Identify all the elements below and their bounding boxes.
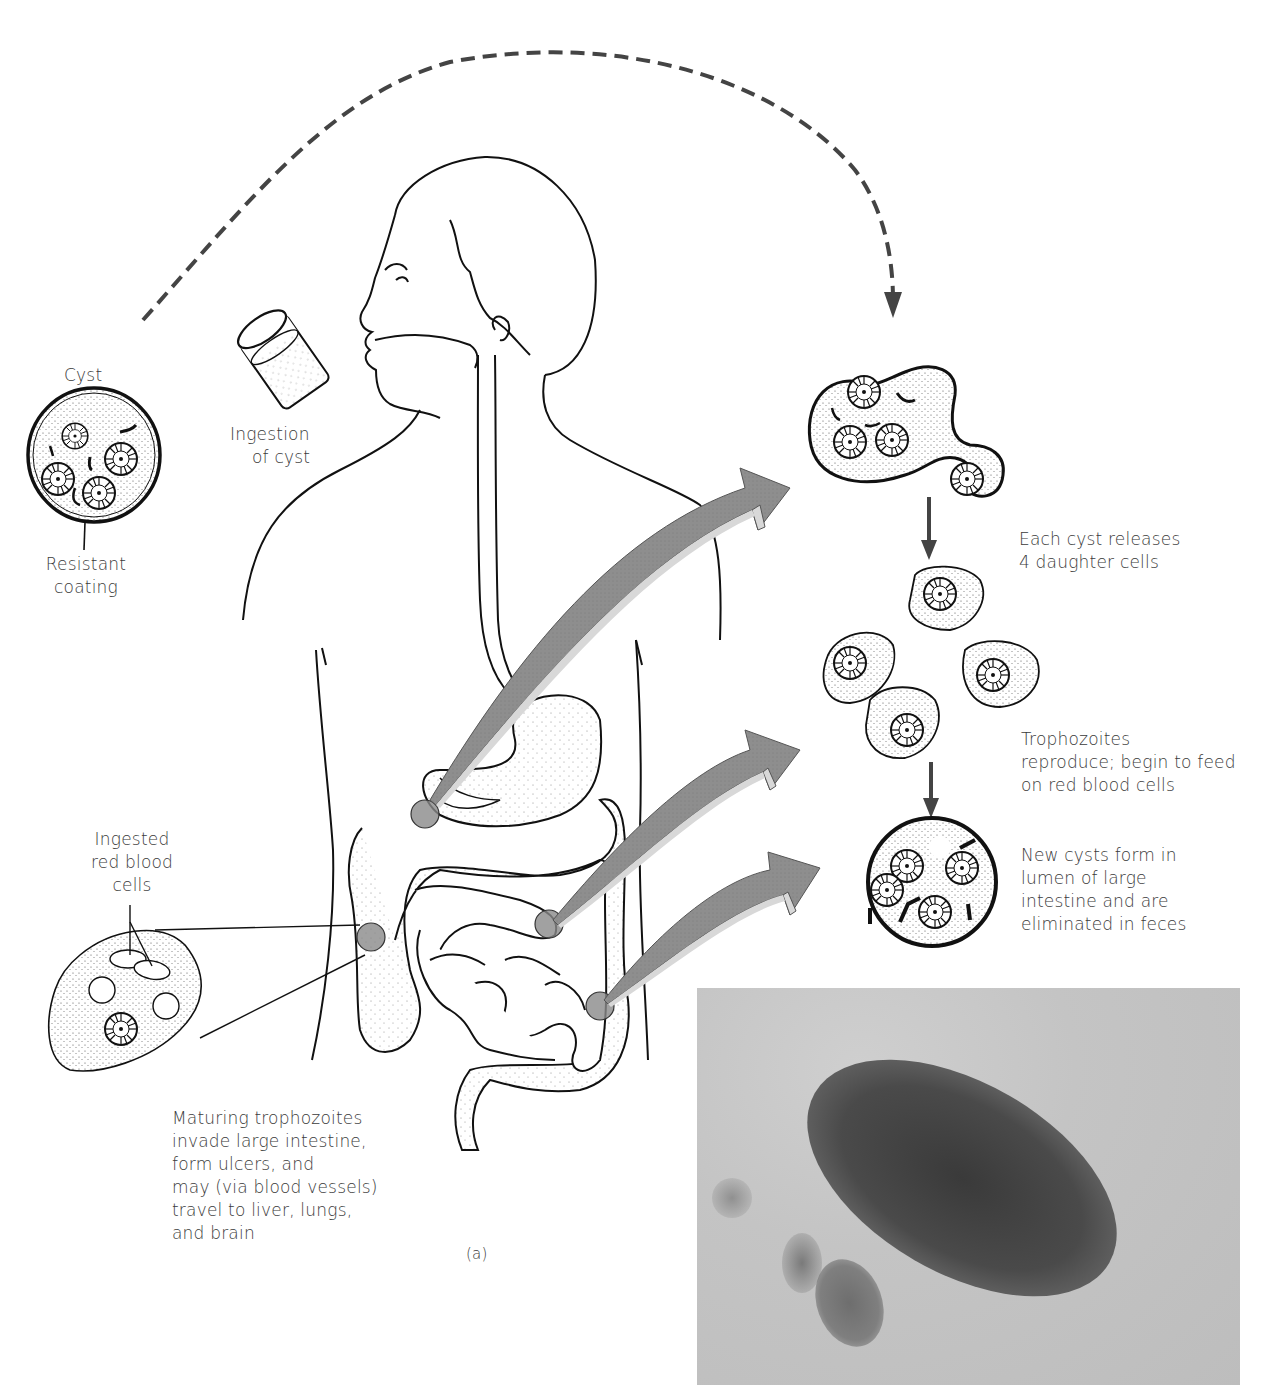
ingested-rbc-label: Ingested red blood cells	[82, 828, 182, 897]
cyst-releases-label: Each cyst releases 4 daughter cells	[1019, 528, 1180, 574]
down-arrow-1	[921, 497, 937, 560]
trophozoite-with-rbc	[49, 905, 365, 1071]
cyst-drawing	[28, 388, 160, 550]
daughter-cells	[824, 567, 1039, 759]
down-arrow-2	[923, 762, 939, 818]
dashed-cycle-arrow	[143, 52, 902, 320]
trophozoites-reproduce-label: Trophozoites reproduce; begin to feed on…	[1021, 728, 1236, 797]
background-blob	[712, 1178, 752, 1218]
rbc-blob-2	[782, 1233, 822, 1293]
micrograph-photo	[697, 988, 1240, 1385]
excysting-cyst	[809, 367, 1003, 496]
migration-arrow-3	[604, 852, 820, 1007]
maturing-trophozoites-label: Maturing trophozoites invade large intes…	[172, 1107, 378, 1245]
panel-label-a: (a)	[466, 1243, 488, 1266]
glass-icon	[232, 303, 331, 410]
new-cyst	[868, 818, 996, 946]
resistant-coating-label: Resistant coating	[40, 553, 132, 599]
ingestion-label: Ingestion of cyst	[230, 423, 310, 469]
cyst-title: Cyst	[64, 364, 102, 387]
new-cysts-label: New cysts form in lumen of large intesti…	[1021, 844, 1187, 936]
